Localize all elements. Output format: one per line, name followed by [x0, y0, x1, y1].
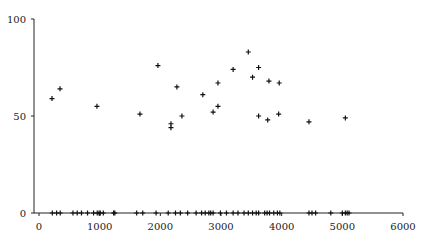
- plus-marker: [178, 211, 183, 216]
- plus-marker: [266, 79, 271, 84]
- plus-marker: [306, 119, 311, 124]
- plus-marker: [215, 81, 220, 86]
- plus-marker: [231, 211, 236, 216]
- plus-marker: [215, 104, 220, 109]
- plus-marker: [231, 67, 236, 72]
- plus-marker: [168, 125, 173, 130]
- plus-marker: [250, 75, 255, 80]
- x-tick-label: 3000: [208, 221, 233, 232]
- plus-marker: [49, 96, 54, 101]
- plus-marker: [85, 211, 90, 216]
- plus-marker: [154, 211, 159, 216]
- plus-marker: [256, 65, 261, 70]
- plus-marker: [200, 92, 205, 97]
- plus-marker: [343, 115, 348, 120]
- plus-marker: [140, 211, 145, 216]
- plus-marker: [137, 112, 142, 117]
- chart-canvas: 0501000100020003000400050006000: [0, 0, 441, 243]
- plus-marker: [211, 211, 216, 216]
- plus-marker: [218, 211, 223, 216]
- x-tick-label: 0: [36, 221, 42, 232]
- plus-marker: [155, 63, 160, 68]
- x-tick-label: 6000: [390, 221, 415, 232]
- x-tick-label: 1000: [87, 221, 112, 232]
- plus-marker: [276, 112, 281, 117]
- x-tick-label: 5000: [330, 221, 355, 232]
- plus-marker: [194, 211, 199, 216]
- axes: 0501000100020003000400050006000: [7, 14, 416, 232]
- plus-marker: [246, 49, 251, 54]
- plus-marker: [166, 211, 171, 216]
- plus-marker: [57, 86, 62, 91]
- plus-marker: [58, 211, 63, 216]
- plus-marker: [94, 104, 99, 109]
- plus-marker: [265, 117, 270, 122]
- plus-marker: [185, 211, 190, 216]
- plus-marker: [256, 114, 261, 119]
- plus-marker: [134, 211, 139, 216]
- scatter-chart: 0501000100020003000400050006000: [0, 0, 441, 243]
- x-tick-label: 2000: [148, 221, 173, 232]
- data-points: [49, 49, 351, 215]
- plus-marker: [235, 211, 240, 216]
- y-tick-label: 50: [13, 111, 26, 122]
- plus-marker: [277, 81, 282, 86]
- plus-marker: [211, 110, 216, 115]
- plus-marker: [328, 211, 333, 216]
- x-tick-label: 4000: [269, 221, 294, 232]
- plus-marker: [313, 211, 318, 216]
- plus-marker: [79, 211, 84, 216]
- plus-marker: [173, 211, 178, 216]
- plus-marker: [174, 84, 179, 89]
- y-tick-label: 0: [20, 208, 26, 219]
- plus-marker: [101, 211, 106, 216]
- plus-marker: [224, 211, 229, 216]
- y-tick-label: 100: [7, 14, 26, 25]
- plus-marker: [256, 211, 261, 216]
- plus-marker: [179, 114, 184, 119]
